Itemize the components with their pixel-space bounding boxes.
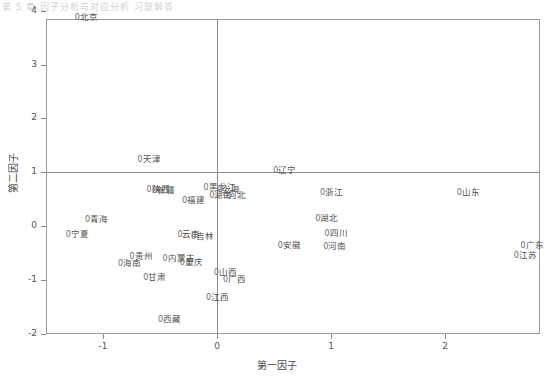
- point-label: 河南: [328, 241, 346, 251]
- point-label: 江西: [211, 292, 229, 302]
- x-tick-label: -1: [88, 341, 118, 351]
- scatter-point: 0吉林: [191, 231, 214, 242]
- point-label: 安徽: [283, 240, 301, 250]
- y-tick-mark: [41, 65, 46, 66]
- x-tick-mark: [445, 334, 446, 339]
- point-label: 福建: [187, 195, 205, 205]
- scatter-point: 0广西: [223, 274, 246, 285]
- point-label: 北京: [80, 12, 98, 22]
- scatter-point: 0北京: [75, 12, 98, 23]
- scatter-point: 0西藏: [158, 314, 181, 325]
- scatter-point: 0天津: [137, 154, 160, 165]
- scatter-point: 0河北: [223, 190, 246, 201]
- x-tick-label: 1: [316, 341, 346, 351]
- point-label: 辽宁: [278, 165, 296, 175]
- y-tick-mark: [41, 226, 46, 227]
- point-label: 海南: [123, 258, 141, 268]
- y-tick-mark: [41, 118, 46, 119]
- x-axis-label: 第一因子: [0, 357, 554, 372]
- scatter-point: 0宁夏: [66, 229, 89, 240]
- scatter-point: 0浙江: [320, 187, 343, 198]
- point-label: 山东: [462, 187, 480, 197]
- point-label: 宁夏: [71, 229, 89, 239]
- point-label: 西藏: [163, 314, 181, 324]
- point-label: 浙江: [325, 187, 343, 197]
- scatter-point: 0重庆: [180, 257, 203, 268]
- point-label: 重庆: [185, 257, 203, 267]
- x-tick-mark: [217, 334, 218, 339]
- scatter-point: 0新疆: [152, 185, 175, 196]
- point-label: 广西: [228, 274, 246, 284]
- y-tick-label: 1: [17, 166, 37, 176]
- y-tick-label: 4: [17, 5, 37, 15]
- x-tick-mark: [103, 334, 104, 339]
- scatter-point: 0江苏: [514, 250, 537, 261]
- y-tick-label: 2: [17, 112, 37, 122]
- x-tick-label: 2: [430, 341, 460, 351]
- y-tick-mark: [41, 280, 46, 281]
- scatter-point: 0四川: [324, 228, 347, 239]
- point-label: 新疆: [157, 185, 175, 195]
- y-tick-mark: [41, 11, 46, 12]
- y-tick-label: 0: [17, 220, 37, 230]
- x-tick-label: 0: [202, 341, 232, 351]
- point-label: 吉林: [196, 231, 214, 241]
- scatter-point: 0海南: [118, 258, 141, 269]
- point-label: 湖北: [320, 213, 338, 223]
- scatter-point: 0江西: [206, 292, 229, 303]
- point-label: 甘肃: [148, 272, 166, 282]
- y-tick-label: 3: [17, 59, 37, 69]
- scatter-point: 0山东: [457, 187, 480, 198]
- scatter-point: 0福建: [182, 195, 205, 206]
- scatter-point: 0辽宁: [273, 165, 296, 176]
- y-tick-mark: [41, 172, 46, 173]
- plot-frame: [46, 19, 540, 334]
- point-label: 天津: [143, 154, 161, 164]
- scatter-point: 0青海: [85, 214, 108, 225]
- vertical-reference-line: [217, 19, 218, 334]
- point-label: 江苏: [519, 250, 537, 260]
- point-label: 四川: [330, 228, 348, 238]
- point-label: 青海: [90, 214, 108, 224]
- x-tick-mark: [331, 334, 332, 339]
- scatter-point: 0甘肃: [143, 272, 166, 283]
- scatter-point: 0湖北: [315, 213, 338, 224]
- y-tick-label: -2: [17, 328, 37, 338]
- y-axis-label: 第二因子: [5, 143, 20, 203]
- scatter-point: 0安徽: [278, 240, 301, 251]
- point-label: 河北: [228, 190, 246, 200]
- scatter-point: 0河南: [323, 241, 346, 252]
- y-tick-label: -1: [17, 274, 37, 284]
- y-tick-mark: [41, 334, 46, 335]
